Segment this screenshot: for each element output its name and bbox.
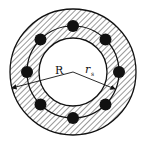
bolt-dot	[100, 99, 112, 111]
label-r-subscript: s	[91, 70, 94, 77]
bolt-dot	[113, 66, 125, 78]
label-R: R	[55, 64, 64, 77]
bolt-dot	[35, 99, 47, 111]
bolt-dot	[100, 34, 112, 46]
bolted-annulus-diagram: R r s	[0, 0, 145, 143]
bolt-dot	[67, 20, 79, 32]
bolt-dot	[21, 66, 33, 78]
bolt-dot	[67, 112, 79, 124]
bolt-dot	[35, 34, 47, 46]
